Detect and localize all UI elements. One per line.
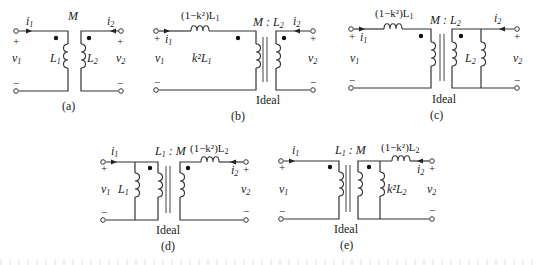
voltage-v1-label: v1: [350, 51, 359, 66]
panel-c-equivalent-circuit: (1−k²)L1 M : L2 i2 + i1 + v1 L2 v2 − − I…: [349, 7, 523, 122]
current-arrow-icon: [499, 27, 505, 32]
voltage-v1-label: v1: [279, 182, 288, 197]
plus-sign: +: [349, 30, 355, 42]
minus-sign: −: [243, 205, 249, 217]
terminal-icon: [515, 86, 520, 91]
plus-sign: +: [117, 35, 123, 47]
current-arrow-icon: [111, 160, 117, 165]
terminal-icon: [101, 218, 106, 223]
polarity-dot-icon: [328, 165, 332, 169]
terminal-icon: [154, 88, 159, 93]
clipped-text-line: [0, 259, 537, 265]
panel-caption: (d): [161, 239, 175, 253]
current-i1-label: i1: [111, 144, 118, 159]
voltage-v2-label: v2: [513, 51, 522, 66]
minus-sign: −: [279, 205, 285, 217]
current-i2-label: i2: [107, 14, 114, 29]
terminal-icon: [119, 29, 124, 34]
minus-sign: −: [117, 77, 123, 89]
ideal-transformer-label: Ideal: [256, 93, 281, 107]
polarity-dot-icon: [367, 165, 371, 169]
polarity-dot-icon: [282, 36, 286, 40]
current-arrow-icon: [294, 29, 300, 34]
turns-ratio-label: L1 : M: [334, 143, 367, 158]
terminal-icon: [349, 86, 354, 91]
current-i1-label: i1: [360, 30, 367, 45]
polarity-dot-icon: [236, 36, 240, 40]
minus-sign: −: [101, 206, 107, 218]
terminal-icon: [14, 29, 19, 34]
current-i2-label: i2: [494, 11, 501, 26]
minus-sign: −: [310, 76, 316, 88]
terminal-icon: [244, 218, 249, 223]
transformer-equivalent-circuits-figure: i1 M i2 + + v1 v2 L1 L2 − − (a) (1−k²)L1…: [0, 0, 537, 265]
inductor-l2-label: L2: [86, 51, 98, 66]
current-i1-label: i1: [165, 32, 172, 47]
terminal-icon: [311, 88, 316, 93]
current-arrow-icon: [110, 29, 116, 34]
minus-sign: −: [514, 74, 520, 86]
panel-a-coupled-inductors: i1 M i2 + + v1 v2 L1 L2 − − (a): [12, 9, 125, 113]
terminal-icon: [279, 217, 284, 222]
polarity-dot-icon: [148, 166, 152, 170]
minus-sign: −: [349, 74, 355, 86]
mutual-inductance-label: M: [67, 9, 79, 23]
polarity-dot-icon: [459, 34, 463, 38]
current-arrow-icon: [289, 159, 295, 164]
shunt-inductor-label: k²L1: [192, 51, 212, 66]
polarity-dot-icon: [186, 166, 190, 170]
plus-sign: +: [13, 35, 19, 47]
panel-caption: (c): [430, 108, 443, 122]
voltage-v2-label: v2: [427, 182, 436, 197]
series-inductor-label: (1−k²)L2: [381, 141, 420, 155]
terminal-icon: [119, 89, 124, 94]
series-inductor-label: (1−k²)L1: [375, 7, 414, 21]
current-i2-label: i2: [293, 14, 300, 29]
current-i1-label: i1: [26, 14, 33, 29]
current-arrow-icon: [26, 29, 32, 34]
current-i2-label: i2: [417, 162, 424, 177]
inductor-l1-label: L1: [49, 51, 61, 66]
turns-ratio-label: M : L2: [429, 13, 461, 28]
polarity-dot-icon: [419, 34, 423, 38]
terminal-icon: [14, 89, 19, 94]
series-inductor-label: (1−k²)L2: [190, 142, 229, 156]
polarity-dot-icon: [54, 36, 58, 40]
plus-sign: +: [429, 162, 435, 174]
turns-ratio-label: L1 : M: [154, 144, 187, 159]
current-i2-label: i2: [231, 163, 238, 178]
minus-sign: −: [154, 76, 160, 88]
plus-sign: +: [154, 32, 160, 44]
panel-caption: (b): [231, 109, 245, 123]
voltage-v1-label: v1: [155, 51, 164, 66]
minus-sign: −: [13, 77, 19, 89]
plus-sign: +: [101, 162, 107, 174]
shunt-inductor-label: L1: [117, 182, 129, 197]
voltage-v2-label: v2: [308, 51, 317, 66]
voltage-v2-label: v2: [116, 51, 125, 66]
minus-sign: −: [429, 204, 435, 216]
shunt-inductor-label: k²L2: [387, 182, 407, 197]
terminal-icon: [430, 217, 435, 222]
series-inductor-label: (1−k²)L1: [181, 9, 220, 23]
plus-sign: +: [243, 163, 249, 175]
plus-sign: +: [514, 30, 520, 42]
panel-caption: (a): [62, 99, 75, 113]
panel-e-equivalent-circuit: i1 L1 : M (1−k²)L2 + i2 + v1 k²L2 v2 − −…: [279, 141, 437, 252]
turns-ratio-label: M : L2: [252, 15, 284, 30]
plus-sign: +: [279, 161, 285, 173]
shunt-inductor-label: L2: [464, 51, 476, 66]
plus-sign: +: [310, 32, 316, 44]
panel-caption: (e): [340, 238, 353, 252]
voltage-v2-label: v2: [241, 182, 250, 197]
ideal-transformer-label: Ideal: [156, 223, 181, 237]
voltage-v1-label: v1: [12, 51, 21, 66]
panel-b-equivalent-circuit: (1−k²)L1 M : L2 i2 + i1 + v1 k²L1 v2 − −…: [154, 9, 318, 123]
current-i1-label: i1: [292, 143, 299, 158]
ideal-transformer-label: Ideal: [432, 92, 457, 106]
polarity-dot-icon: [87, 36, 91, 40]
ideal-transformer-label: Ideal: [334, 222, 359, 236]
panel-d-equivalent-circuit: i1 L1 : M (1−k²)L2 + i2 + v1 L1 v2 − − I…: [101, 142, 251, 253]
voltage-v1-label: v1: [101, 182, 110, 197]
